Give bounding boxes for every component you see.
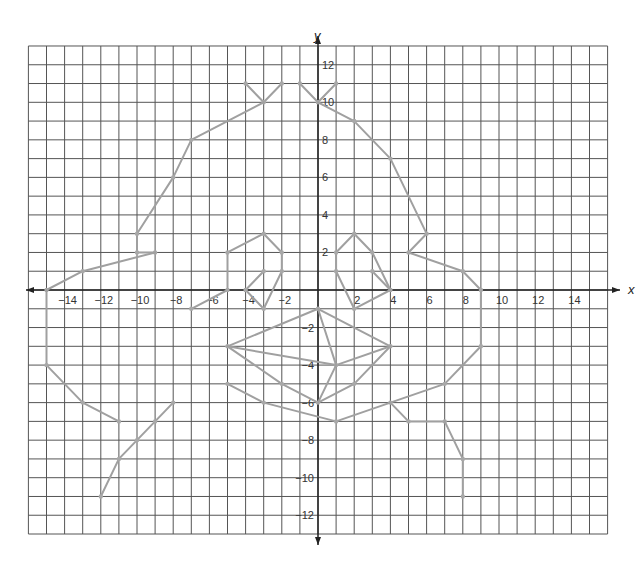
- plotted-point: [153, 419, 157, 423]
- plotted-point: [424, 231, 428, 235]
- plotted-point: [171, 175, 175, 179]
- y-tick-label: −6: [301, 397, 314, 409]
- x-tick-label: −4: [242, 294, 255, 306]
- coordinate-grid-diagram: −14−12−10−8−6−4−2246810121412108642−2−4−…: [0, 0, 644, 564]
- plotted-point: [135, 438, 139, 442]
- plotted-point: [334, 81, 338, 85]
- plotted-point: [298, 81, 302, 85]
- x-tick-label: 12: [532, 294, 544, 306]
- y-axis-label: y: [313, 28, 322, 43]
- plotted-point: [406, 419, 410, 423]
- plotted-point: [461, 269, 465, 273]
- x-tick-label: 8: [463, 294, 469, 306]
- plotted-point: [81, 400, 85, 404]
- x-tick-label: −2: [279, 294, 292, 306]
- plotted-point: [243, 81, 247, 85]
- x-tick-label: 4: [390, 294, 396, 306]
- plotted-point: [225, 288, 229, 292]
- plotted-point: [189, 307, 193, 311]
- plotted-point: [443, 382, 447, 386]
- plotted-point: [262, 269, 266, 273]
- plotted-point: [388, 156, 392, 160]
- plotted-point: [262, 231, 266, 235]
- plotted-point: [461, 494, 465, 498]
- plotted-point: [479, 344, 483, 348]
- plotted-point: [262, 307, 266, 311]
- x-axis-arrow-left-icon: [26, 287, 34, 293]
- y-tick-label: 8: [322, 134, 328, 146]
- plotted-point: [135, 250, 139, 254]
- y-tick-label: −8: [301, 434, 314, 446]
- y-tick-label: 6: [322, 171, 328, 183]
- plotted-point: [370, 250, 374, 254]
- plotted-point: [352, 382, 356, 386]
- plotted-point: [479, 288, 483, 292]
- plotted-point: [280, 382, 284, 386]
- plotted-point: [406, 250, 410, 254]
- y-tick-label: 4: [322, 209, 328, 221]
- plotted-point: [243, 288, 247, 292]
- x-tick-label: −14: [58, 294, 77, 306]
- plotted-point: [370, 269, 374, 273]
- snout-center: [318, 309, 336, 403]
- plotted-point: [225, 250, 229, 254]
- plotted-point: [352, 231, 356, 235]
- y-tick-label: −10: [295, 472, 314, 484]
- plotted-point: [352, 307, 356, 311]
- x-tick-label: −10: [131, 294, 150, 306]
- x-tick-label: −12: [94, 294, 113, 306]
- plotted-point: [171, 400, 175, 404]
- head-outline-right: [318, 102, 481, 421]
- plotted-point: [262, 400, 266, 404]
- plotted-point: [99, 494, 103, 498]
- y-axis-arrow-down-icon: [315, 537, 321, 545]
- y-tick-label: −2: [301, 322, 314, 334]
- x-tick-label: 2: [354, 294, 360, 306]
- plotted-point: [117, 419, 121, 423]
- plotted-point: [189, 138, 193, 142]
- plotted-point: [135, 231, 139, 235]
- plotted-point: [461, 457, 465, 461]
- plotted-point: [44, 363, 48, 367]
- x-tick-label: 10: [496, 294, 508, 306]
- x-axis-label: x: [627, 282, 635, 297]
- x-axis-arrow-right-icon: [612, 287, 620, 293]
- plotted-point: [280, 269, 284, 273]
- plotted-point: [280, 81, 284, 85]
- plotted-point: [280, 250, 284, 254]
- plotted-point: [117, 457, 121, 461]
- x-tick-label: 14: [568, 294, 580, 306]
- y-tick-label: −12: [295, 509, 314, 521]
- plotted-point: [81, 269, 85, 273]
- plotted-point: [225, 382, 229, 386]
- plotted-point: [352, 119, 356, 123]
- plotted-point: [334, 269, 338, 273]
- y-tick-label: 12: [322, 59, 334, 71]
- x-tick-label: 6: [427, 294, 433, 306]
- plotted-point: [334, 419, 338, 423]
- y-tick-label: 2: [322, 246, 328, 258]
- eye-right-inner: [372, 271, 390, 290]
- x-tick-label: −8: [170, 294, 183, 306]
- plotted-point: [334, 250, 338, 254]
